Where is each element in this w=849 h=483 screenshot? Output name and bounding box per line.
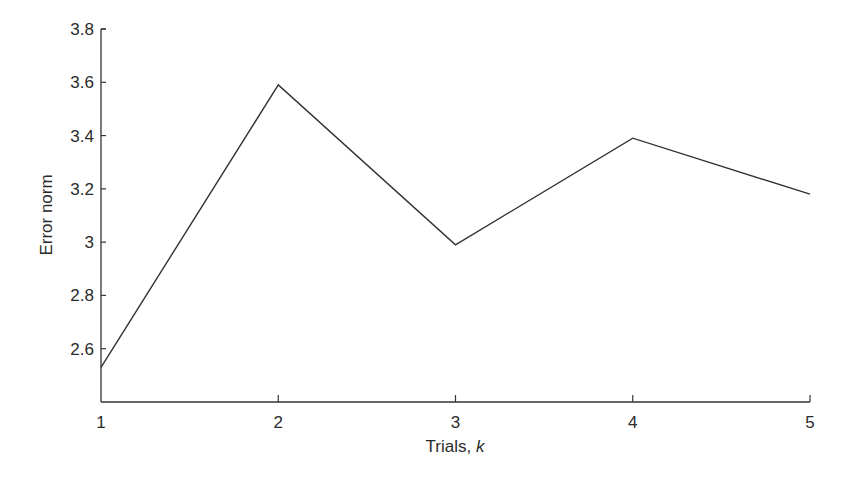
x-tick-label: 5 (805, 413, 814, 432)
y-tick-label: 2.8 (70, 286, 94, 305)
x-axis-label: Trials, k (426, 437, 486, 456)
y-tick-label: 3 (85, 233, 94, 252)
x-ticks: 12345 (96, 395, 814, 432)
y-tick-label: 3.6 (70, 73, 94, 92)
y-tick-label: 3.8 (70, 20, 94, 39)
error-norm-line (101, 85, 810, 368)
x-tick-label: 2 (274, 413, 283, 432)
y-tick-label: 2.6 (70, 340, 94, 359)
x-tick-label: 3 (451, 413, 460, 432)
y-tick-label: 3.2 (70, 180, 94, 199)
x-tick-label: 4 (628, 413, 637, 432)
line-chart: 2.62.833.23.43.63.8 12345 Error norm Tri… (0, 0, 849, 483)
y-axis-label: Error norm (37, 174, 56, 255)
y-tick-label: 3.4 (70, 127, 94, 146)
x-tick-label: 1 (96, 413, 105, 432)
plot-axes (101, 29, 810, 402)
